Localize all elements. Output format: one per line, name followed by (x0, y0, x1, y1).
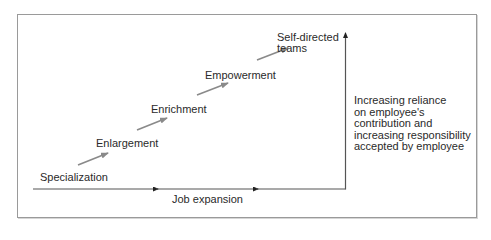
stage-label-line-2: teams (277, 43, 339, 54)
stage-arrow-3-icon (197, 83, 228, 95)
description-line: Increasing reliance (354, 95, 479, 107)
stage-arrow-2-icon (137, 118, 167, 130)
stage-label-enrichment: Enrichment (151, 104, 207, 115)
description-line: accepted by employee (354, 141, 479, 153)
stage-label-specialization: Specialization (40, 172, 108, 183)
stage-label-enlargement: Enlargement (96, 138, 158, 149)
stage-label-self-directed-teams: Self-directed teams (277, 32, 339, 54)
description-line: contribution and (354, 118, 479, 130)
x-axis-label: Job expansion (172, 194, 243, 205)
y-axis-description: Increasing reliance on employee's contri… (354, 95, 479, 153)
stage-arrow-1-icon (78, 153, 108, 165)
stage-label-empowerment: Empowerment (205, 70, 276, 81)
